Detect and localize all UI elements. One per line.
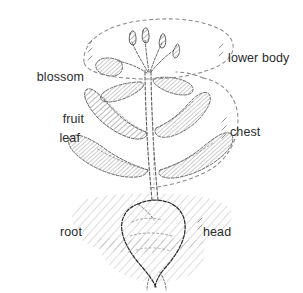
label-fruit-text: fruit — [6, 112, 84, 126]
label-leaf: leaf — [40, 131, 80, 145]
label-chest: chest — [230, 125, 290, 139]
label-head: head — [203, 225, 253, 239]
plant-anatomy-figure: blossom fruit lower body chest leaf root… — [0, 0, 303, 293]
label-blossom-text: blossom — [6, 70, 84, 84]
label-lower-body: lower body — [228, 51, 300, 65]
flower-buds — [96, 28, 193, 102]
label-root: root — [36, 225, 82, 239]
